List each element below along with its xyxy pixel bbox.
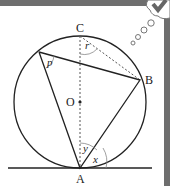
angle-label-p: p [46,56,53,68]
label-c: C [76,21,84,35]
circle-geometry-diagram: C B O A p r y x [0,0,170,186]
top-frame-bar [0,0,150,6]
label-o: O [66,95,75,109]
right-frame-bar [164,18,170,186]
label-a: A [76,172,85,186]
center-point [78,100,81,103]
angle-arc-x [103,148,107,168]
label-b: B [145,73,153,87]
angle-label-x: x [92,153,98,165]
angle-label-r: r [85,39,90,51]
angle-label-y: y [82,142,88,154]
